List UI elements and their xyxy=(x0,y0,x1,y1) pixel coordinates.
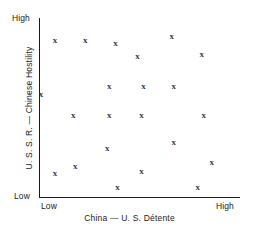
y-axis-title: U. S. S. R. — Chinese Hostility xyxy=(24,18,34,198)
data-point: x xyxy=(196,183,201,192)
data-point: x xyxy=(53,35,58,44)
data-point: x xyxy=(53,168,58,177)
x-axis-title: China — U. S. Détente xyxy=(0,213,259,223)
data-point: x xyxy=(139,167,144,176)
data-point: x xyxy=(113,39,118,48)
x-axis-low-label: Low xyxy=(41,201,57,211)
data-point: x xyxy=(73,161,78,170)
data-point: x xyxy=(200,50,205,59)
scatter-plot-figure: xxxxxxxxxxxxxxxxxxxxxx High Low Low High… xyxy=(0,0,259,233)
data-point: x xyxy=(139,111,144,120)
data-point: x xyxy=(39,89,44,98)
data-point: x xyxy=(105,143,110,152)
data-point: x xyxy=(71,111,76,120)
data-point: x xyxy=(135,51,140,60)
x-axis-high-label: High xyxy=(216,201,234,211)
data-point: x xyxy=(171,82,176,91)
data-point: x xyxy=(169,32,174,41)
data-point: x xyxy=(210,158,215,167)
data-point-layer: xxxxxxxxxxxxxxxxxxxxxx xyxy=(0,0,259,233)
data-point: x xyxy=(141,82,146,91)
data-point: x xyxy=(107,111,112,120)
data-point: x xyxy=(202,111,207,120)
data-point: x xyxy=(115,183,120,192)
data-point: x xyxy=(171,138,176,147)
data-point: x xyxy=(83,35,88,44)
data-point: x xyxy=(107,82,112,91)
